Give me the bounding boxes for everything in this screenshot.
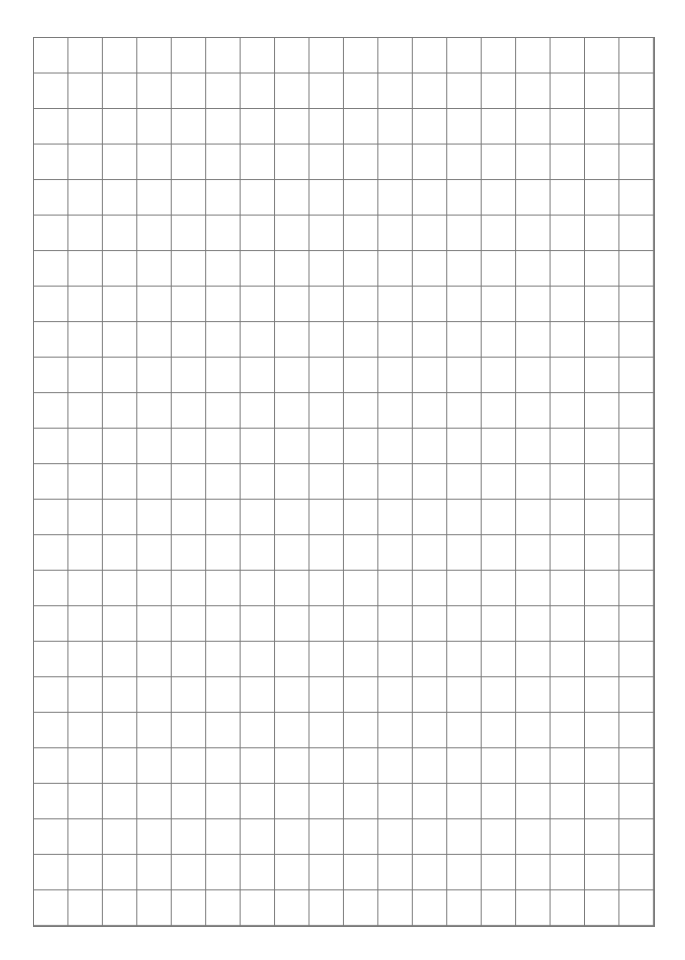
graph-paper-grid: [33, 37, 655, 927]
